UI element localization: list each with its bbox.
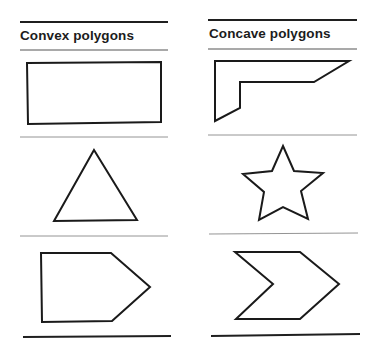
concave-bottom-rule xyxy=(211,334,360,336)
polygon-comparison-diagram: Convex polygons Concave polygons xyxy=(0,0,375,352)
triangle-shape xyxy=(54,150,137,221)
l-shaped-polygon-shape xyxy=(215,61,349,121)
rectangle-shape xyxy=(27,62,161,124)
convex-bottom-rule xyxy=(23,336,171,337)
diagram-graphics xyxy=(0,0,375,352)
convex-polygons-heading: Convex polygons xyxy=(20,28,134,43)
chevron-shape xyxy=(235,252,339,319)
concave-polygons-heading: Concave polygons xyxy=(209,26,331,41)
pentagon-shape xyxy=(41,253,150,322)
concave-divider-2 xyxy=(209,233,358,234)
star-shape xyxy=(243,146,323,220)
